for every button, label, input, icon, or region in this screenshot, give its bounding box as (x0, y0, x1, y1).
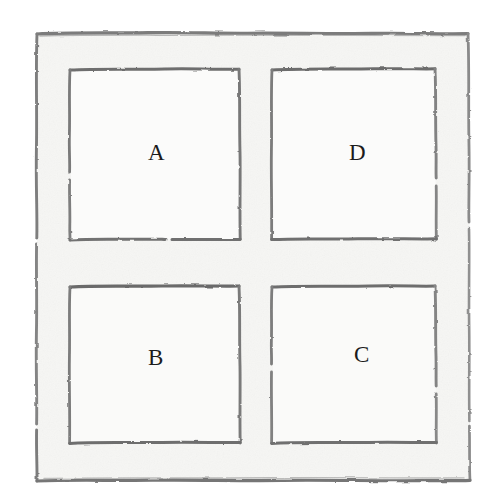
diagram-canvas: A D B C (0, 0, 499, 501)
cell-c-right-edge (435, 286, 436, 386)
outer-square-bottom-edge (37, 480, 470, 481)
cell-d-right-edge (435, 69, 436, 178)
cell-label-b: B (148, 346, 164, 369)
cell-b-bottom-edge (70, 442, 241, 443)
hand-drawn-square-diagram (0, 0, 499, 501)
cell-c-bottom-edge (272, 442, 437, 443)
cell-c-top-edge (272, 286, 435, 287)
cell-a-right-edge (239, 69, 240, 239)
cell-d-left-edge (271, 70, 272, 239)
outer-square-right-edge (468, 34, 469, 222)
cell-c-left-edge (271, 287, 272, 364)
cell-b-left-edge (69, 287, 70, 443)
cell-b-top-edge (70, 286, 239, 287)
cell-b-right-edge (239, 286, 240, 443)
cell-a-left-edge (69, 70, 70, 172)
outer-square-left-edge (36, 34, 37, 238)
outer-square-top-edge (37, 32, 468, 34)
cell-a-bottom-edge (70, 239, 166, 240)
cell-a-top-edge (70, 69, 239, 70)
cell-label-a: A (148, 141, 165, 164)
cell-label-d: D (349, 141, 366, 164)
cell-d-bottom-edge (272, 239, 437, 240)
cell-d-top-edge (272, 69, 435, 70)
cell-label-c: C (354, 343, 370, 366)
